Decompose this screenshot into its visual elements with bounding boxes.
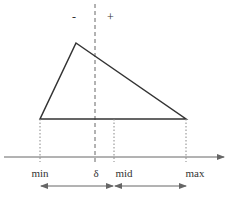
delta-label: δ [93,167,98,179]
plus-sign-label: + [107,10,114,24]
mid-label: mid [115,167,133,179]
minus-sign-label: - [72,10,76,24]
min-label: min [31,167,49,179]
diagram-canvas: - + min δ mid max [0,0,234,200]
max-label: max [186,167,205,179]
triangle-shape [40,43,186,119]
